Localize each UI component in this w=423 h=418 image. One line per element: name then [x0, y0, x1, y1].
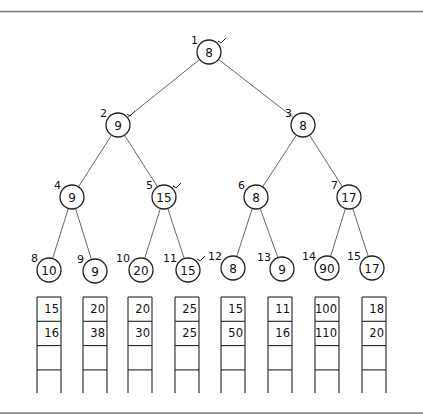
node-value: 15: [156, 191, 171, 205]
node-index: 14: [302, 250, 316, 263]
node-value: 8: [229, 262, 237, 276]
check-mark-icon: [127, 111, 135, 116]
tree-edge: [76, 208, 92, 259]
tree-node: 9014: [302, 250, 339, 280]
buffer-cell-value: 20: [369, 326, 384, 340]
node-index: 1: [191, 34, 198, 47]
buffer-cell-value: 16: [275, 326, 290, 340]
node-value: 8: [299, 119, 307, 133]
node-index: 12: [208, 250, 222, 263]
node-value: 15: [180, 264, 195, 278]
run-buffer-column: 1116: [268, 297, 292, 393]
node-index: 5: [146, 179, 153, 192]
tree-edge: [237, 208, 253, 256]
node-index: 4: [54, 179, 61, 192]
tree-node: 177: [331, 179, 361, 209]
node-index: 2: [100, 107, 107, 120]
node-index: 15: [347, 250, 361, 263]
node-value: 8: [252, 191, 260, 205]
node-value: 9: [68, 191, 76, 205]
node-value: 9: [278, 263, 286, 277]
node-index: 7: [331, 179, 338, 192]
run-buffer-column: 100110: [315, 297, 339, 393]
buffer-cell-value: 50: [228, 326, 243, 340]
buffer-cell-value: 20: [135, 302, 150, 316]
tree-node: 2010: [116, 252, 153, 282]
buffer-cell-value: 25: [182, 326, 197, 340]
check-mark-icon: [218, 38, 226, 43]
run-buffer-column: 2038: [83, 297, 107, 393]
buffer-cell-value: 100: [315, 302, 337, 316]
tree-node: 86: [238, 179, 268, 209]
check-mark-icon: [197, 256, 205, 261]
tree-nodes: 8192839415586177108992010151181291390141…: [31, 34, 384, 283]
tree-node: 108: [31, 252, 61, 282]
tree-edge: [127, 60, 199, 118]
tree-node: 1715: [347, 250, 384, 280]
buffer-cell-value: 16: [44, 326, 59, 340]
node-index: 8: [31, 252, 38, 265]
buffer-cell-value: 25: [182, 302, 197, 316]
tree-node: 155: [146, 179, 181, 209]
node-value: 8: [205, 46, 213, 60]
tree-node: 92: [100, 107, 135, 137]
buffer-cell-value: 15: [228, 302, 243, 316]
node-index: 13: [257, 251, 271, 264]
tree-node: 812: [208, 250, 245, 280]
tree-node: 83: [285, 107, 315, 137]
run-buffer-column: 1550: [221, 297, 245, 393]
node-value: 20: [133, 264, 148, 278]
node-index: 11: [163, 252, 177, 265]
buffer-cell-value: 110: [315, 326, 337, 340]
run-buffer-column: 2030: [128, 297, 152, 393]
node-value: 90: [319, 262, 334, 276]
run-buffer-columns: 1516203820302525155011161001101820: [37, 297, 386, 393]
tree-node: 81: [191, 34, 226, 64]
buffer-cell-value: 38: [90, 326, 105, 340]
tree-edge: [53, 208, 69, 258]
tree-node: 913: [257, 251, 294, 281]
run-buffer-column: 1516: [37, 297, 61, 393]
node-index: 6: [238, 179, 245, 192]
tree-edge: [218, 59, 293, 117]
tree-edge: [78, 135, 111, 187]
tree-node: 94: [54, 179, 84, 209]
node-index: 3: [285, 107, 292, 120]
run-buffer-column: 2525: [175, 297, 199, 393]
tree-edges: [53, 59, 369, 259]
tree-edge: [263, 135, 297, 187]
tree-edge: [331, 208, 346, 256]
buffer-cell-value: 30: [135, 326, 150, 340]
node-value: 9: [91, 265, 99, 279]
buffer-cell-value: 20: [90, 302, 105, 316]
node-index: 10: [116, 252, 130, 265]
buffer-cell-value: 18: [369, 302, 384, 316]
tree-node: 99: [77, 253, 107, 283]
check-mark-icon: [173, 183, 181, 188]
tree-edge: [145, 208, 161, 258]
node-index: 9: [77, 253, 84, 266]
node-value: 9: [114, 119, 122, 133]
node-value: 10: [41, 264, 56, 278]
node-value: 17: [341, 191, 356, 205]
run-buffer-column: 1820: [362, 297, 386, 393]
node-value: 17: [364, 262, 379, 276]
buffer-cell-value: 15: [44, 302, 59, 316]
buffer-cell-value: 11: [275, 302, 290, 316]
tournament-tree-diagram: 8192839415586177108992010151181291390141…: [0, 0, 423, 418]
